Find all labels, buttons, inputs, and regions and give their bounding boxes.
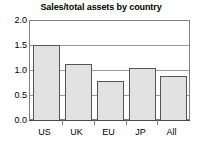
bar-chart: Sales/total assets by country 0.0 0.5 1.… — [0, 0, 202, 144]
y-tick-label-0: 0.0 — [1, 116, 27, 125]
x-tick-4 — [157, 120, 158, 125]
x-tick-label-all: All — [157, 127, 186, 137]
x-tick-label-jp: JP — [126, 127, 155, 137]
y-axis-labels: 0.0 0.5 1.0 1.5 2.0 — [0, 0, 27, 144]
bar-uk[interactable] — [65, 64, 92, 120]
bars-layer — [29, 20, 190, 120]
y-tick-label-3: 1.5 — [1, 41, 27, 50]
bar-us[interactable] — [33, 45, 60, 120]
x-tick-2 — [94, 120, 95, 125]
bar-jp[interactable] — [129, 68, 156, 120]
chart-title: Sales/total assets by country — [0, 2, 202, 13]
y-tick-label-4: 2.0 — [1, 16, 27, 25]
y-tick-label-1: 0.5 — [1, 91, 27, 100]
x-tick-label-uk: UK — [62, 127, 91, 137]
x-axis-line — [29, 120, 190, 121]
x-tick-label-us: US — [30, 127, 59, 137]
bar-eu[interactable] — [97, 81, 124, 120]
x-tick-3 — [126, 120, 127, 125]
y-tick-label-2: 1.0 — [1, 66, 27, 75]
x-tick-label-eu: EU — [94, 127, 123, 137]
bar-all[interactable] — [160, 76, 187, 120]
x-tick-1 — [62, 120, 63, 125]
